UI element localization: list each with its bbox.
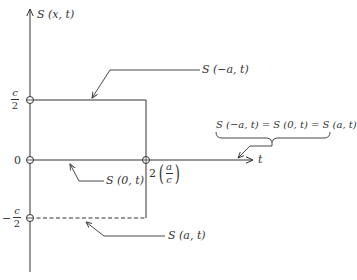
t-mark-coef: 2 [149,167,156,180]
pulse-s-minus-a [30,100,146,218]
left-paren: ( [159,163,164,185]
level-neg-c-half-den: 2 [14,219,20,229]
level-c-half-den: 2 [12,101,18,111]
y-axis-label: S (x, t) [37,9,74,20]
marker-origin [27,157,34,164]
marker-top [27,97,34,104]
callout-s-minus-a: S (−a, t) [202,64,249,75]
leader-s-minus-a [92,70,200,98]
callout-equality: S (−a, t) = S (0, t) = S (a, t) [216,120,357,130]
t-mark-fraction: a c [166,162,173,185]
level-c-half-num: c [11,88,19,98]
right-paren: ) [174,163,179,185]
level-neg-c-half-num: c [13,206,21,216]
t-mark-den: c [166,175,172,185]
equality-brace [216,132,330,158]
marker-bottom [27,215,34,222]
point-markers [27,97,150,222]
leader-s-zero [70,164,104,181]
t-mark-label: 2 ( a c ) [149,162,181,185]
level-zero: 0 [14,155,21,166]
callout-s-a: S (a, t) [168,230,206,241]
level-c-half: c 2 [11,88,19,111]
level-neg-c-half: c 2 [13,206,21,229]
leader-s-a [86,222,165,236]
t-mark-num: a [166,162,172,172]
t-axis-label: t [258,154,262,165]
level-neg-sign: − [2,212,11,225]
callout-s-zero: S (0, t) [106,175,144,186]
